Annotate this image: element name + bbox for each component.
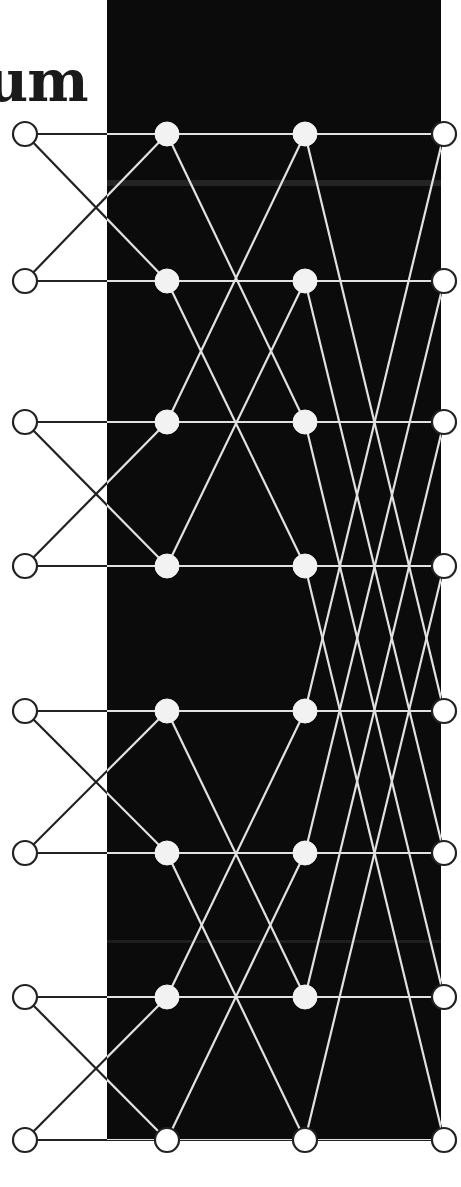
node-col0-row0: [13, 122, 37, 146]
node-col0-row7: [13, 1128, 37, 1152]
fft-butterfly-diagram: [0, 0, 461, 1187]
node-col3-row6: [432, 985, 456, 1009]
node-col0-row3: [13, 554, 37, 578]
node-col3-row1: [432, 269, 456, 293]
node-col2-row7: [293, 1128, 317, 1152]
node-col3-row7: [432, 1128, 456, 1152]
scan-artifact-streak: [107, 940, 441, 943]
node-col0-row2: [13, 410, 37, 434]
node-col2-row1: [293, 269, 317, 293]
node-col3-row0: [432, 122, 456, 146]
scan-artifact-streak: [107, 180, 441, 186]
node-col3-row3: [432, 554, 456, 578]
node-col2-row4: [293, 699, 317, 723]
node-col1-row7: [155, 1128, 179, 1152]
node-col1-row1: [155, 269, 179, 293]
node-col0-row1: [13, 269, 37, 293]
node-col1-row2: [155, 410, 179, 434]
node-col2-row5: [293, 841, 317, 865]
node-col2-row3: [293, 554, 317, 578]
node-col2-row2: [293, 410, 317, 434]
node-col1-row5: [155, 841, 179, 865]
node-col3-row4: [432, 699, 456, 723]
node-col2-row0: [293, 122, 317, 146]
node-col1-row3: [155, 554, 179, 578]
node-col2-row6: [293, 985, 317, 1009]
node-col0-row4: [13, 699, 37, 723]
node-col3-row2: [432, 410, 456, 434]
node-col1-row4: [155, 699, 179, 723]
node-col1-row6: [155, 985, 179, 1009]
node-col0-row5: [13, 841, 37, 865]
node-col0-row6: [13, 985, 37, 1009]
node-col3-row5: [432, 841, 456, 865]
node-col1-row0: [155, 122, 179, 146]
